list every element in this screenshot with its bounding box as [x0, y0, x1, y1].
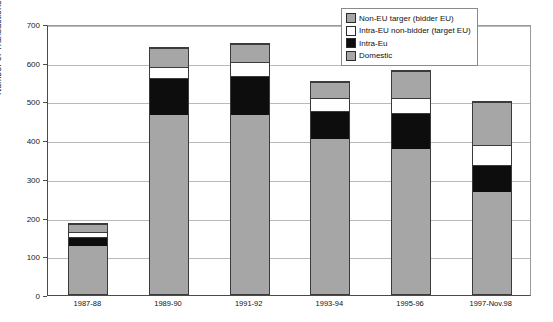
y-tick-mark-400 [43, 141, 47, 142]
legend-item[interactable]: Domestic [346, 50, 471, 63]
bar-slot [48, 26, 129, 295]
bar-segment-domestic [311, 139, 349, 294]
x-tick-label-1995-96: 1995-96 [396, 299, 424, 308]
y-tick-mark-200 [43, 219, 47, 220]
y-tick-label-0: 0 [0, 292, 40, 301]
y-tick-mark-0 [43, 296, 47, 297]
legend-item[interactable]: Intra-Eu [346, 37, 471, 50]
bar-segment-intraeu [311, 112, 349, 140]
bar-segment-domestic [231, 115, 269, 294]
stacked-bar-chart: 7006005004003002001000 Number of Transac… [0, 0, 553, 322]
y-tick-label-100: 100 [0, 253, 40, 262]
y-tick-label-700: 700 [0, 21, 40, 30]
legend-label: Domestic [359, 51, 392, 60]
y-tick-mark-700 [43, 25, 47, 26]
bar-slot [371, 26, 452, 295]
bar-segment-noneu [311, 82, 349, 98]
bar-segment-intraeu [69, 238, 107, 246]
legend-item[interactable]: Intra-EU non-bidder (target EU) [346, 25, 471, 38]
bar-segment-noneu [473, 102, 511, 145]
swatch-black-icon [346, 38, 356, 48]
y-tick-mark-500 [43, 102, 47, 103]
bar-slot [290, 26, 371, 295]
bar-slot [451, 26, 532, 295]
x-tick-label-1993-94: 1993-94 [316, 299, 344, 308]
bar-segment-noneu [69, 224, 107, 232]
x-tick-label-1997-Nov.98: 1997-Nov.98 [469, 299, 511, 308]
bar-1987-88[interactable] [68, 223, 108, 295]
bar-group [48, 26, 530, 295]
swatch-white-icon [346, 26, 356, 36]
y-tick-label-500: 500 [0, 98, 40, 107]
y-tick-mark-100 [43, 257, 47, 258]
bar-segment-noneu [150, 48, 188, 67]
y-tick-label-200: 200 [0, 214, 40, 223]
bar-1997-Nov.98[interactable] [472, 101, 512, 295]
bar-segment-noneu [231, 44, 269, 61]
legend-label: Non-EU targer (bidder EU) [359, 14, 454, 23]
y-tick-label-400: 400 [0, 137, 40, 146]
y-tick-label-600: 600 [0, 59, 40, 68]
bar-slot [129, 26, 210, 295]
bar-segment-noneu [392, 71, 430, 98]
legend-item[interactable]: Non-EU targer (bidder EU) [346, 12, 471, 25]
x-tick-label-1987-88: 1987-88 [74, 299, 102, 308]
x-tick-label-1991-92: 1991-92 [235, 299, 263, 308]
swatch-gray-hatch-icon [346, 51, 356, 61]
bar-segment-nonbidder [150, 67, 188, 79]
bar-1989-90[interactable] [149, 47, 189, 295]
swatch-gray-icon [346, 13, 356, 23]
legend-label: Intra-Eu [359, 39, 387, 48]
y-tick-mark-600 [43, 64, 47, 65]
bar-segment-nonbidder [231, 62, 269, 77]
x-axis-labels: 1987-881989-901991-921993-941995-961997-… [47, 299, 531, 317]
y-axis-title: Number of Transactions [0, 0, 3, 95]
bar-segment-intraeu [231, 77, 269, 115]
bar-segment-intraeu [392, 114, 430, 149]
y-tick-label-300: 300 [0, 175, 40, 184]
bar-segment-domestic [392, 149, 430, 294]
bar-segment-domestic [150, 115, 188, 294]
bar-segment-intraeu [473, 166, 511, 192]
bar-segment-nonbidder [392, 98, 430, 113]
bar-segment-intraeu [150, 79, 188, 115]
bar-1993-94[interactable] [310, 81, 350, 295]
y-tick-mark-300 [43, 180, 47, 181]
bar-segment-nonbidder [473, 145, 511, 166]
bar-1995-96[interactable] [391, 70, 431, 295]
legend-label: Intra-EU non-bidder (target EU) [359, 26, 471, 35]
bar-segment-domestic [473, 192, 511, 294]
x-tick-label-1989-90: 1989-90 [154, 299, 182, 308]
bar-slot [209, 26, 290, 295]
legend: Non-EU targer (bidder EU)Intra-EU non-bi… [341, 8, 478, 66]
bar-segment-domestic [69, 246, 107, 294]
bar-1991-92[interactable] [230, 43, 270, 295]
bar-segment-nonbidder [311, 98, 349, 112]
